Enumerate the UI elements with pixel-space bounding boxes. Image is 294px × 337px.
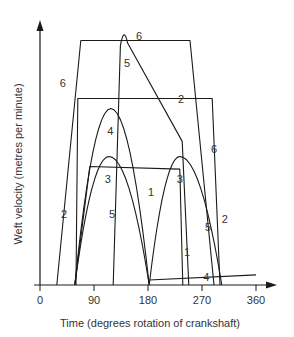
curve-label-2: 2 [178, 93, 184, 105]
x-axis-title: Time (degrees rotation of crankshaft) [60, 317, 240, 329]
y-axis-title: Weft velocity (metres per minute) [12, 83, 24, 244]
curve-label-6: 6 [211, 143, 217, 155]
weft-velocity-chart: 090180270360 656264331525214 Time (degre… [0, 0, 294, 337]
curve-label-3: 3 [105, 173, 111, 185]
curve-label-4: 4 [203, 271, 209, 283]
curve-label-1: 1 [184, 246, 190, 258]
curve-label-1: 1 [148, 186, 154, 198]
curve-5 [113, 35, 189, 285]
curves [57, 35, 256, 285]
curve-label-2: 2 [61, 208, 67, 220]
curve-1 [75, 167, 183, 285]
x-tick-label: 270 [193, 294, 211, 306]
curve-label-3: 3 [177, 173, 183, 185]
curve-label-5: 5 [109, 208, 115, 220]
curve-label-2: 2 [222, 213, 228, 225]
y-axis-arrow-icon [37, 20, 44, 31]
x-axis-arrow-icon [266, 282, 277, 289]
x-tick-label: 180 [139, 294, 157, 306]
curve-3 [75, 156, 222, 285]
axes: 090180270360 [34, 20, 277, 306]
x-tick-label: 0 [37, 294, 43, 306]
curve-label-5: 5 [205, 221, 211, 233]
curve-label-4: 4 [107, 125, 113, 137]
curve-4 [75, 109, 256, 285]
curve-label-6: 6 [60, 77, 66, 89]
x-tick-label: 360 [247, 294, 265, 306]
x-ticks: 090180270360 [37, 285, 265, 306]
x-tick-label: 90 [88, 294, 100, 306]
curve-label-5: 5 [124, 57, 130, 69]
curve-label-6: 6 [136, 30, 142, 42]
curve-labels: 656264331525214 [60, 30, 228, 284]
